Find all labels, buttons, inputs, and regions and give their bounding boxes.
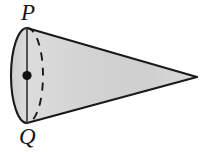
base-center-point-dot — [22, 71, 31, 80]
cone-lateral-surface — [27, 28, 197, 123]
vertex-label-p: P — [21, 1, 35, 24]
cone-figure: P Q — [0, 0, 205, 152]
vertex-label-q: Q — [19, 125, 36, 148]
